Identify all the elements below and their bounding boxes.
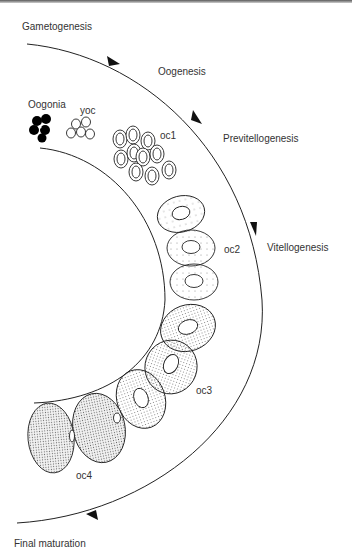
label-oc1: oc1 — [160, 131, 176, 141]
oc4-cell-2 — [24, 401, 77, 475]
label-oc4: oc4 — [76, 471, 92, 481]
label-oogonia: Oogonia — [28, 100, 66, 110]
label-oc3: oc3 — [196, 386, 212, 396]
label-vitellogenesis: Vitellogenesis — [267, 243, 329, 253]
label-final-maturation: Final maturation — [14, 539, 86, 549]
oc2-cells — [153, 190, 218, 300]
arrowhead-previtellogenesis — [191, 110, 202, 124]
arrowhead-oogenesis — [107, 56, 120, 66]
oogonia-cluster — [29, 114, 51, 143]
oc2-cell-2 — [167, 230, 215, 266]
oc3-cells — [108, 297, 222, 436]
label-gametogenesis: Gametogenesis — [22, 22, 92, 32]
arrowhead-final-maturation — [86, 510, 98, 520]
label-oc2: oc2 — [224, 245, 240, 255]
yoc-cluster — [67, 117, 95, 139]
label-yoc: yoc — [80, 106, 96, 116]
arrowhead-vitellogenesis — [250, 222, 257, 236]
oc4-cells — [24, 388, 131, 475]
label-previtellogenesis: Previtellogenesis — [223, 134, 299, 144]
label-oogenesis: Oogenesis — [158, 67, 206, 77]
oogenesis-diagram — [0, 0, 352, 557]
oc2-cell-3 — [170, 264, 218, 300]
oc2-cell-1 — [153, 190, 209, 237]
